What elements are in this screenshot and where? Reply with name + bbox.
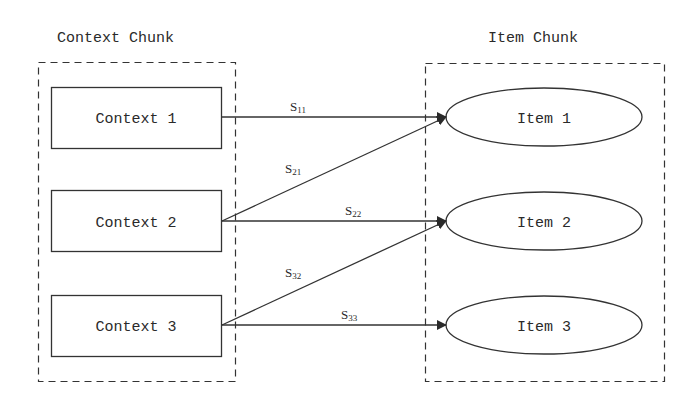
item-node-1: Item 1 [446, 88, 642, 146]
edge-s21: S21 [222, 117, 446, 221]
context-node-label: Context 1 [95, 111, 176, 128]
context-chunk-title: Context Chunk [57, 30, 174, 47]
context-node-3: Context 3 [52, 296, 222, 357]
edge-label: S22 [345, 203, 361, 219]
item-chunk-title: Item Chunk [488, 30, 578, 47]
context-node-label: Context 3 [95, 319, 176, 336]
edge-label: S32 [285, 265, 301, 281]
arrow-icon [222, 117, 446, 221]
edge-label: S21 [285, 161, 301, 177]
edge-s32: S32 [222, 221, 446, 325]
item-node-2: Item 2 [446, 192, 642, 250]
edge-label: S11 [290, 99, 306, 115]
diagram-canvas: Context Chunk Item Chunk Context 1 Conte… [0, 0, 699, 404]
edge-label: S33 [341, 307, 358, 323]
arrow-icon [222, 221, 446, 325]
edge-s11: S11 [222, 99, 446, 117]
item-node-label: Item 1 [517, 111, 571, 128]
context-node-1: Context 1 [52, 88, 222, 149]
item-node-3: Item 3 [446, 296, 642, 354]
context-node-2: Context 2 [52, 191, 222, 252]
item-node-label: Item 2 [517, 215, 571, 232]
item-node-label: Item 3 [517, 319, 571, 336]
context-node-label: Context 2 [95, 215, 176, 232]
